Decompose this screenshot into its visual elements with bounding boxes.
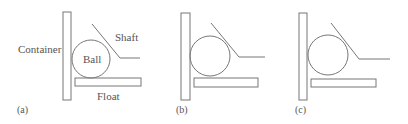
label-shaft: Shaft — [115, 31, 138, 43]
container-wall — [181, 13, 190, 100]
panel-c: (c) — [295, 13, 390, 116]
caption-b: (b) — [176, 104, 188, 116]
diagram-canvas: Container Ball Shaft Float (a) (b) (c) — [0, 0, 408, 124]
caption-a: (a) — [17, 104, 28, 116]
panel-b: (b) — [176, 13, 265, 116]
label-container: Container — [18, 43, 62, 55]
float — [194, 78, 258, 87]
float — [311, 79, 376, 87]
ball — [190, 36, 230, 76]
shaft — [211, 23, 265, 57]
ball — [308, 35, 348, 75]
label-ball: Ball — [83, 53, 101, 65]
container-wall — [299, 13, 307, 100]
shaft — [331, 23, 390, 59]
label-float: Float — [97, 90, 120, 102]
container-wall — [63, 12, 71, 100]
float — [75, 78, 141, 86]
caption-c: (c) — [295, 104, 306, 116]
panel-a: Container Ball Shaft Float (a) — [17, 12, 141, 116]
